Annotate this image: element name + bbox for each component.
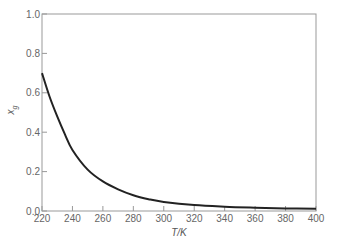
- y-axis-title: xg: [5, 105, 19, 115]
- x-tick-label: 360: [247, 213, 264, 224]
- x-axis-title: T/K: [171, 227, 188, 238]
- x-tick-label: 300: [155, 213, 172, 224]
- plot-frame: [42, 14, 316, 211]
- x-tick-label: 380: [277, 213, 294, 224]
- y-tick-label: 0.2: [26, 166, 40, 177]
- y-tick-label: 0.8: [26, 48, 40, 59]
- y-tick-label: 0.4: [26, 127, 40, 138]
- y-tick-label: 0.0: [26, 206, 40, 217]
- x-tick-label: 320: [186, 213, 203, 224]
- x-tick-label: 400: [308, 213, 325, 224]
- data-curve-xg: [42, 73, 316, 209]
- x-tick-label: 280: [125, 213, 142, 224]
- y-tick-label: 1.0: [26, 9, 40, 20]
- y-axis-title-sub: g: [11, 105, 19, 109]
- x-tick-label: 340: [216, 213, 233, 224]
- chart: 220240260280300320340360380400 0.00.20.4…: [0, 0, 337, 251]
- x-tick-label: 240: [64, 213, 81, 224]
- x-tick-label: 260: [95, 213, 112, 224]
- plot-border: [42, 14, 316, 211]
- y-tick-label: 0.6: [26, 87, 40, 98]
- y-axis-ticks: 0.00.20.40.60.81.0: [26, 9, 47, 217]
